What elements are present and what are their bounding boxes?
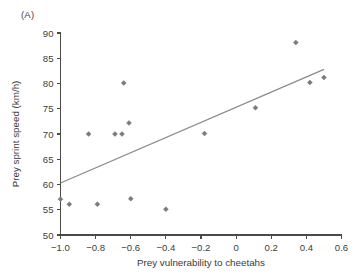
data-point xyxy=(202,131,207,136)
x-tick-label: −0.8 xyxy=(86,242,105,253)
data-point xyxy=(67,202,72,207)
y-tick-label: 65 xyxy=(43,154,54,165)
x-tick-label: 0.6 xyxy=(335,242,348,253)
data-point xyxy=(307,80,312,85)
x-tick-label: −1.0 xyxy=(51,242,70,253)
y-axis-title: Prey sprint speed (km/h) xyxy=(10,81,21,188)
x-tick-label: −0.4 xyxy=(156,242,176,253)
data-point xyxy=(86,132,91,137)
y-tick-label: 85 xyxy=(43,53,54,64)
y-tick-label: 80 xyxy=(43,78,54,89)
data-point xyxy=(163,207,168,212)
x-tick-label: −0.2 xyxy=(192,242,211,253)
data-point xyxy=(128,196,133,201)
data-point xyxy=(112,132,117,137)
x-tick-label: 0 xyxy=(233,242,238,253)
data-point xyxy=(95,202,100,207)
data-point xyxy=(321,75,326,80)
y-tick-label: 55 xyxy=(43,204,54,215)
y-tick-label: 75 xyxy=(43,103,54,114)
data-point xyxy=(119,132,124,137)
regression-line xyxy=(61,69,324,183)
data-point xyxy=(121,80,126,85)
data-point xyxy=(126,120,131,125)
x-axis-title: Prey vulnerability to cheetahs xyxy=(137,257,265,268)
data-point xyxy=(58,197,63,202)
data-point xyxy=(253,105,258,110)
x-tick-label: −0.6 xyxy=(121,242,140,253)
x-tick-label: 0.2 xyxy=(265,242,278,253)
y-tick-label: 90 xyxy=(43,28,54,39)
y-tick-label: 60 xyxy=(43,179,54,190)
figure-panel-a: (A) 505560657075808590−1.0−0.8−0.6−0.4−0… xyxy=(0,0,363,278)
scatter-plot: 505560657075808590−1.0−0.8−0.6−0.4−0.200… xyxy=(0,0,363,278)
y-tick-label: 70 xyxy=(43,129,54,140)
y-tick-label: 50 xyxy=(43,230,54,241)
data-point xyxy=(293,40,298,45)
x-tick-label: 0.4 xyxy=(300,242,314,253)
